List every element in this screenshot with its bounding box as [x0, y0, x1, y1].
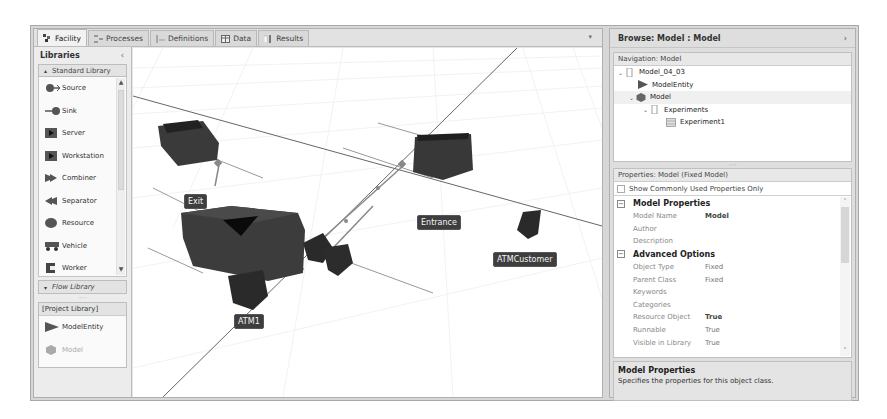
tab-results[interactable]: Results — [258, 30, 309, 46]
show-common-properties-toggle[interactable]: Show Commonly Used Properties Only — [614, 182, 851, 196]
tree-item-experiment1[interactable]: Experiment1 — [614, 116, 851, 129]
object-label-atm1[interactable]: ATM1 — [234, 314, 264, 329]
tab-list-dropdown[interactable]: ▾ — [588, 33, 592, 41]
property-row-description[interactable]: Description — [614, 235, 839, 248]
property-row-keywords[interactable]: Keywords — [614, 286, 839, 299]
property-grid: − Model Properties Model Name Model Auth… — [614, 197, 839, 357]
property-description-panel: Model Properties Specifies the propertie… — [613, 361, 852, 401]
object-label-atmcustomer[interactable]: ATMCustomer — [493, 252, 557, 267]
standard-library-header[interactable]: ▴ Standard Library — [38, 64, 127, 77]
tab-data[interactable]: Data — [215, 30, 257, 46]
chevron-down-icon[interactable]: ⌄ — [616, 69, 625, 76]
separator-icon — [45, 196, 61, 206]
property-row-visible-in-library[interactable]: Visible in Library True — [614, 336, 839, 349]
library-item-vehicle[interactable]: Vehicle — [39, 235, 126, 258]
property-row-runnable[interactable]: Runnable True — [614, 324, 839, 337]
atm-customer-entity[interactable] — [517, 210, 541, 239]
property-category-advanced-options[interactable]: − Advanced Options — [614, 248, 839, 261]
tab-definitions[interactable]: Definitions — [150, 30, 214, 46]
experiment-icon — [666, 118, 676, 127]
facility-view-pane: Facility Processes Definitions Data — [33, 28, 603, 398]
properties-scrollbar[interactable]: ˄ ˅ — [840, 197, 850, 356]
tab-label: Facility — [55, 34, 81, 43]
show-common-properties-checkbox[interactable] — [617, 185, 625, 193]
object-label-entrance[interactable]: Entrance — [417, 215, 461, 230]
tab-label: Results — [276, 34, 303, 43]
navigation-header: Navigation: Model — [614, 53, 851, 66]
collapse-libraries-button[interactable]: ‹ — [121, 51, 124, 60]
tree-item-model-04-03[interactable]: ⌄ Model_04_03 — [614, 66, 851, 79]
collapse-category-icon[interactable]: − — [617, 200, 625, 208]
property-row-author[interactable]: Author — [614, 223, 839, 236]
experiments-icon — [650, 105, 660, 114]
library-item-separator[interactable]: Separator — [39, 190, 126, 213]
scroll-thumb[interactable] — [118, 90, 124, 190]
scroll-down-arrow[interactable]: ▼ — [117, 265, 125, 275]
property-row-parent-class[interactable]: Parent Class Fixed — [614, 273, 839, 286]
simio-window: Facility Processes Definitions Data — [30, 25, 859, 401]
atm1-server-object[interactable] — [181, 206, 353, 310]
resource-icon — [45, 218, 61, 228]
scroll-down-arrow[interactable]: ˅ — [840, 346, 850, 355]
standard-library-list: Source Sink Server Workstation Combiner — [38, 77, 127, 277]
browse-pane: Browse: Model : Model › Navigation: Mode… — [609, 28, 856, 398]
tab-label: Definitions — [168, 34, 208, 43]
navigation-panel: Navigation: Model ⌄ Model_04_03 ModelEnt… — [613, 52, 852, 162]
tab-label: Processes — [106, 34, 143, 43]
workstation-icon — [45, 151, 61, 161]
properties-header: Properties: Model (Fixed Model) — [614, 169, 851, 182]
project-library: [Project Library] ModelEntity Model — [38, 302, 127, 368]
exit-object[interactable] — [158, 120, 219, 166]
collapse-category-icon[interactable]: − — [617, 250, 625, 258]
property-row-object-type[interactable]: Object Type Fixed — [614, 261, 839, 274]
tree-item-model[interactable]: ⌄ Model — [614, 91, 851, 104]
library-item-worker[interactable]: Worker — [39, 257, 126, 280]
flow-library-header[interactable]: ▾ Flow Library — [38, 280, 127, 294]
sink-icon — [45, 106, 61, 116]
library-item-source[interactable]: Source — [39, 77, 126, 100]
description-title: Model Properties — [618, 366, 847, 375]
library-item-sink[interactable]: Sink — [39, 100, 126, 123]
library-item-combiner[interactable]: Combiner — [39, 167, 126, 190]
panel-splitter-grip[interactable]: ····· — [34, 294, 131, 302]
model-entity-icon — [45, 322, 61, 332]
scroll-thumb[interactable] — [841, 207, 849, 263]
chevron-down-icon[interactable]: ⌄ — [627, 94, 636, 101]
properties-panel: Properties: Model (Fixed Model) Show Com… — [613, 168, 852, 358]
property-row-categories[interactable]: Categories — [614, 299, 839, 312]
tree-item-experiments[interactable]: ⌄ Experiments — [614, 104, 851, 117]
data-table-icon — [221, 35, 230, 43]
scroll-up-arrow[interactable]: ▲ — [117, 78, 125, 88]
worker-icon — [45, 263, 61, 273]
library-item-server[interactable]: Server — [39, 122, 126, 145]
processes-icon — [94, 35, 103, 43]
library-scrollbar[interactable]: ▲ ▼ — [116, 78, 125, 275]
library-item-workstation[interactable]: Workstation — [39, 145, 126, 168]
library-item-resource[interactable]: Resource — [39, 212, 126, 235]
project-icon — [625, 68, 635, 77]
project-library-header: [Project Library] — [39, 303, 126, 316]
tree-item-modelentity[interactable]: ModelEntity — [614, 79, 851, 92]
libraries-title: Libraries — [40, 51, 80, 60]
property-row-model-name[interactable]: Model Name Model — [614, 210, 839, 223]
expand-browse-button[interactable]: › — [844, 34, 847, 43]
tab-processes[interactable]: Processes — [88, 30, 149, 46]
library-item-modelentity[interactable]: ModelEntity — [39, 316, 126, 339]
scroll-up-arrow[interactable]: ˄ — [840, 197, 850, 206]
entrance-object[interactable] — [413, 133, 473, 180]
property-category-model-properties[interactable]: − Model Properties — [614, 197, 839, 210]
facility-3d-canvas[interactable]: Exit Entrance ATM1 ATMCustomer — [133, 48, 602, 397]
chevron-up-icon: ▴ — [44, 67, 47, 74]
results-icon — [264, 35, 273, 43]
standard-library-label: Standard Library — [52, 67, 111, 75]
libraries-header: Libraries ‹ — [34, 47, 131, 64]
tab-label: Data — [233, 34, 251, 43]
library-item-model[interactable]: Model — [39, 339, 126, 362]
tab-facility[interactable]: Facility — [37, 29, 87, 46]
browse-header: Browse: Model : Model › — [610, 29, 855, 48]
property-row-resource-object[interactable]: Resource Object True — [614, 311, 839, 324]
chevron-down-icon[interactable]: ⌄ — [641, 106, 650, 113]
facility-scene — [133, 48, 602, 397]
vehicle-icon — [45, 241, 61, 251]
object-label-exit[interactable]: Exit — [184, 194, 207, 209]
